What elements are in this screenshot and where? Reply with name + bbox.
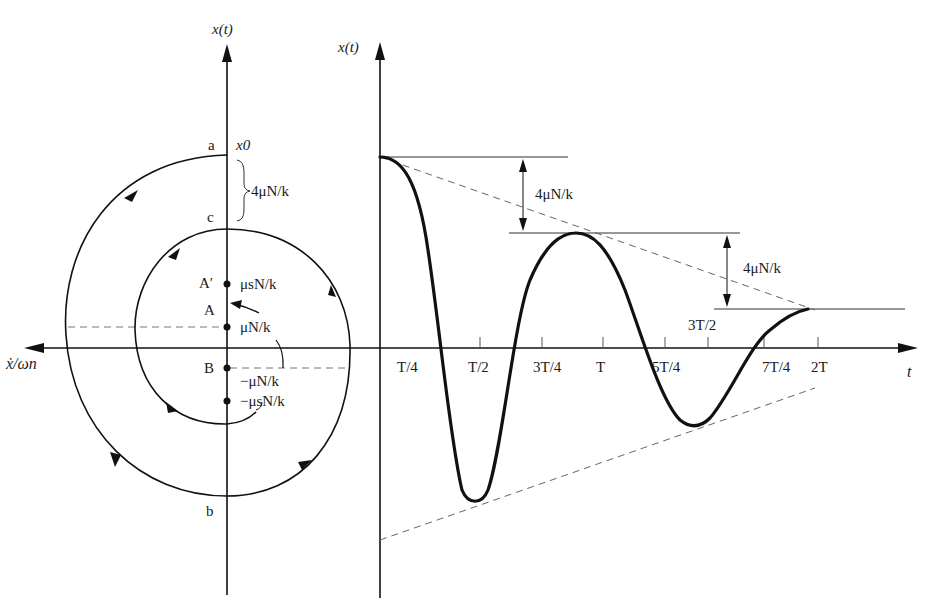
- gap-label: 4μN/k: [251, 184, 289, 199]
- trajectory-arrow-icon: [124, 190, 138, 202]
- phase-y-axis-label: x(t): [212, 22, 233, 37]
- mu-pos-label: μN/k: [240, 320, 271, 335]
- point-A-prime-label: A′: [199, 276, 213, 291]
- A-leader-arrow-icon: [230, 300, 242, 309]
- tick-label-2T: 2T: [811, 360, 828, 375]
- point-B: [224, 365, 231, 372]
- phase-plane: [24, 44, 380, 595]
- tick-marks: [480, 337, 818, 348]
- inner-trajectory-tail: [227, 412, 256, 424]
- point-b-label: b: [206, 504, 214, 519]
- B-leader-line: [276, 340, 283, 368]
- lower-envelope: [380, 388, 815, 540]
- phase-x-axis-label: ẋ/ωn: [6, 356, 37, 372]
- point-A: [224, 324, 231, 331]
- tick-label-5T4: 5T/4: [652, 360, 680, 375]
- figure: x(t) ẋ/ωn a x0 4μN/k c A′ μsN/k A μN/k B…: [0, 0, 934, 600]
- tick-label-T: T: [596, 360, 605, 375]
- point-a-label: a: [208, 138, 215, 153]
- tick-label-3T4: 3T/4: [533, 360, 561, 375]
- tick-label-T4: T/4: [397, 360, 418, 375]
- decrement-1-arrow-up-icon: [519, 159, 527, 172]
- tick-label-T2: T/2: [468, 360, 489, 375]
- mus-neg-label: −μsN/k: [240, 394, 285, 409]
- x0-label: x0: [236, 138, 250, 153]
- outer-trajectory-left: [66, 155, 227, 496]
- time-plot: [375, 42, 918, 598]
- decrement-1-arrow-down-icon: [519, 218, 527, 231]
- point-neg-mus: [224, 398, 231, 405]
- point-c-label: c: [207, 210, 214, 225]
- point-B-label: B: [204, 361, 214, 376]
- tick-label-3T2: 3T/2: [688, 318, 716, 333]
- gap-brace: [237, 160, 250, 221]
- outer-trajectory-right: [227, 229, 350, 496]
- decrement-1-label: 4μN/k: [535, 187, 573, 202]
- mus-pos-label: μsN/k: [240, 277, 276, 292]
- time-t-axis-arrow-icon: [898, 343, 918, 353]
- point-A-prime: [224, 281, 231, 288]
- upper-envelope: [380, 157, 815, 310]
- point-A-label: A: [204, 303, 215, 318]
- trajectory-arrow-icon: [166, 402, 178, 413]
- decrement-2-arrow-down-icon: [723, 294, 731, 307]
- mu-neg-label: −μN/k: [240, 374, 279, 389]
- diagram-canvas: [0, 0, 934, 600]
- decrement-2-label: 4μN/k: [743, 261, 781, 276]
- phase-y-axis-arrow-icon: [222, 44, 232, 62]
- time-y-axis-arrow-icon: [375, 42, 385, 60]
- phase-x-axis-arrow-icon: [24, 343, 44, 353]
- tick-label-7T4: 7T/4: [762, 360, 790, 375]
- response-curve: [380, 157, 808, 501]
- time-y-axis-label: x(t): [338, 40, 359, 55]
- time-x-axis-label: t: [907, 364, 911, 380]
- decrement-2-arrow-up-icon: [723, 235, 731, 248]
